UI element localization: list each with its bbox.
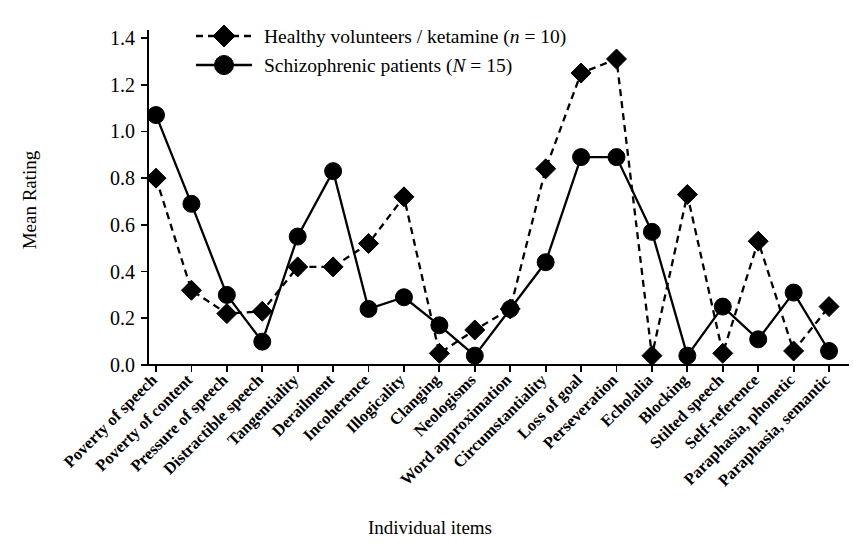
- data-point-diamond: [642, 346, 662, 366]
- y-tick-label: 1.4: [110, 27, 135, 49]
- x-axis-tick-labels: Poverty of speechPoverty of contentPress…: [60, 370, 834, 490]
- chart-legend: Healthy volunteers / ketamine (n = 10)Sc…: [196, 25, 566, 77]
- data-point-circle: [821, 342, 838, 359]
- data-point-circle: [785, 284, 802, 301]
- data-point-diamond: [713, 343, 733, 363]
- data-point-circle: [714, 298, 731, 315]
- data-point-circle: [431, 317, 448, 334]
- data-point-diamond: [748, 231, 768, 251]
- data-point-diamond: [217, 304, 237, 324]
- data-point-diamond: [819, 297, 839, 317]
- data-point-diamond: [465, 320, 485, 340]
- y-tick-label: 0.0: [110, 354, 135, 376]
- legend-item: Schizophrenic patients (N = 15): [196, 55, 512, 77]
- data-point-diamond: [394, 187, 414, 207]
- data-point-circle: [289, 228, 306, 245]
- x-axis-title: Individual items: [368, 517, 492, 538]
- data-point-circle: [218, 286, 235, 303]
- data-point-circle: [215, 56, 234, 75]
- data-point-diamond: [784, 341, 804, 361]
- data-point-circle: [573, 149, 590, 166]
- y-tick-label: 0.8: [110, 167, 135, 189]
- legend-item: Healthy volunteers / ketamine (n = 10): [196, 25, 566, 48]
- data-point-circle: [395, 289, 412, 306]
- data-point-diamond: [571, 63, 591, 83]
- data-point-circle: [148, 107, 165, 124]
- figure-container: 0.00.20.40.60.81.01.21.4 Poverty of spee…: [0, 0, 853, 552]
- data-point-circle: [325, 163, 342, 180]
- data-point-diamond: [429, 343, 449, 363]
- y-tick-label: 1.0: [110, 120, 135, 142]
- data-point-circle: [466, 347, 483, 364]
- y-axis-ticks: 0.00.20.40.60.81.01.21.4: [110, 27, 148, 376]
- data-point-diamond: [213, 25, 235, 47]
- data-point-circle: [679, 347, 696, 364]
- legend-label: Schizophrenic patients (N = 15): [264, 55, 512, 77]
- y-tick-label: 0.6: [110, 214, 135, 236]
- data-point-diamond: [323, 257, 343, 277]
- y-tick-label: 1.2: [110, 74, 135, 96]
- data-point-circle: [537, 254, 554, 271]
- data-point-circle: [360, 300, 377, 317]
- y-axis-title: Mean Rating: [19, 150, 40, 249]
- data-point-circle: [750, 331, 767, 348]
- y-tick-label: 0.4: [110, 261, 135, 283]
- data-point-circle: [183, 195, 200, 212]
- y-tick-label: 0.2: [110, 307, 135, 329]
- line-chart: 0.00.20.40.60.81.01.21.4 Poverty of spee…: [0, 0, 853, 552]
- data-point-diamond: [536, 159, 556, 179]
- legend-label: Healthy volunteers / ketamine (n = 10): [264, 26, 566, 48]
- data-point-diamond: [606, 49, 626, 69]
- data-point-diamond: [677, 184, 697, 204]
- data-point-circle: [254, 333, 271, 350]
- data-point-diamond: [359, 234, 379, 254]
- data-point-circle: [608, 149, 625, 166]
- data-point-diamond: [181, 280, 201, 300]
- data-point-circle: [502, 300, 519, 317]
- data-point-circle: [643, 223, 660, 240]
